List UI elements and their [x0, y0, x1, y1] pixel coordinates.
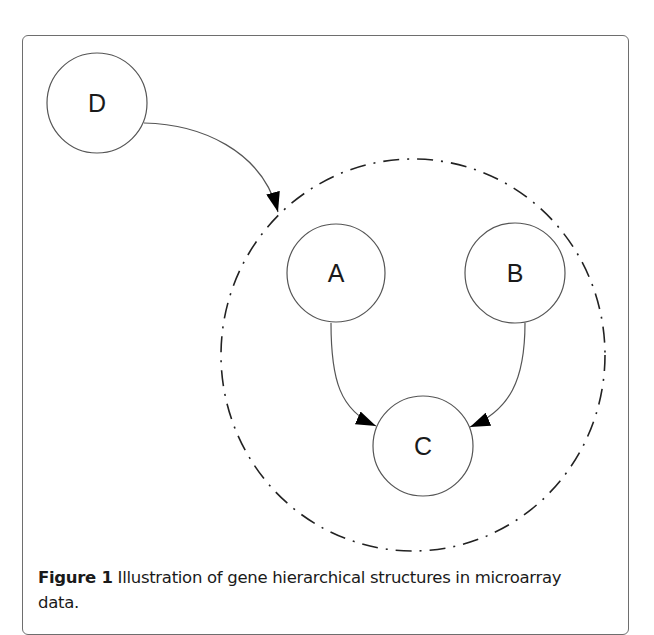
- node-b-label: B: [507, 259, 524, 287]
- node-c: C: [373, 396, 473, 496]
- node-a-label: A: [328, 259, 345, 287]
- node-b: B: [465, 223, 565, 323]
- node-c-label: C: [414, 432, 432, 460]
- figure-number: Figure 1: [38, 568, 113, 587]
- edge-d-to-group: [144, 123, 278, 212]
- edge-b-to-c: [470, 323, 525, 427]
- node-d-label: D: [88, 89, 106, 117]
- figure-caption: Figure 1 Illustration of gene hierarchic…: [38, 565, 598, 615]
- caption-text: Illustration of gene hierarchical struct…: [38, 568, 561, 612]
- node-a: A: [287, 224, 385, 322]
- edge-a-to-c: [331, 323, 376, 426]
- node-d: D: [47, 53, 147, 153]
